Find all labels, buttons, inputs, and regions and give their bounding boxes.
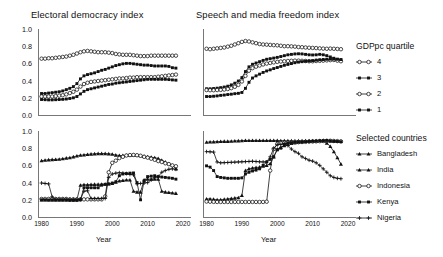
legend-item-label: 1 [377,106,381,114]
x-axis-line-bottom-left [38,217,191,218]
legend-item-label: 2 [377,90,381,98]
x-tick-label: 1990 [65,220,89,227]
x-tick-label: 2000 [265,220,289,227]
y-tick-label: 0.4 [6,77,32,86]
legend-item-label: India [377,166,393,174]
y-axis-line-top-right [203,29,204,115]
plot-speech-media-freedom-countries [203,131,348,217]
legend-item[interactable]: Kenya [356,198,399,206]
legend-marker-filled-square-icon [356,106,372,114]
legend-marker-plus-icon [356,214,372,222]
y-tick-label: 0.6 [6,161,32,170]
x-axis-title-right: Year [261,235,276,244]
y-tick-label: 1.0 [6,127,32,136]
plot-area-top-right [203,29,348,115]
plot-area-top-left [38,29,183,115]
y-axis-line-top-left [38,29,39,115]
legend-item-label: 3 [377,74,381,82]
panel-title-electoral-democracy: Electoral democracy index [31,9,143,20]
x-axis-line-top-right [203,115,356,116]
plot-area-bottom-right [203,131,348,217]
y-tick-label: 0.6 [6,59,32,68]
y-tick-label: 0.0 [6,213,32,222]
legend-item[interactable]: 3 [356,74,381,82]
x-tick-label: 2010 [136,220,160,227]
y-tick-label: 0.8 [6,144,32,153]
y-tick-label: 0.2 [6,196,32,205]
legend-marker-filled-triangle-icon [356,150,372,158]
y-tick-label: 0.8 [6,42,32,51]
x-tick-label: 2010 [301,220,325,227]
plot-area-bottom-left [38,131,183,217]
x-axis-line-bottom-right [203,217,356,218]
legend-item[interactable]: Indonesia [356,182,410,190]
plot-electoral-democracy-quartiles [38,29,183,115]
legend-marker-filled-triangle-icon [356,166,372,174]
figure-panel-grid: Electoral democracy index Speech and med… [0,0,443,257]
x-axis-line-top-left [38,115,191,116]
x-tick-label: 2000 [100,220,124,227]
legend-item[interactable]: 2 [356,90,381,98]
y-tick-label: 1.0 [6,25,32,34]
panel-title-speech-media-freedom: Speech and media freedom index [196,9,339,20]
legend-item-label: Nigeria [377,214,401,222]
legend-item[interactable]: Nigeria [356,214,401,222]
legend-item[interactable]: 1 [356,106,381,114]
x-tick-label: 1990 [230,220,254,227]
x-tick-label: 2020 [171,220,195,227]
legend-marker-open-circle-icon [356,58,372,66]
legend-marker-filled-square-icon [356,198,372,206]
y-tick-label: 0.2 [6,94,32,103]
legend-title-selected-countries: Selected countries [356,133,427,143]
y-axis-line-bottom-right [203,131,204,217]
legend-marker-open-circle-icon [356,182,372,190]
legend-item[interactable]: 4 [356,58,381,66]
legend-item-label: Bangladesh [377,150,417,158]
legend-marker-filled-square-icon [356,74,372,82]
y-tick-label: 0.0 [6,111,32,120]
legend-marker-open-circle-icon [356,90,372,98]
y-tick-label: 0.4 [6,179,32,188]
x-tick-label: 1980 [30,220,54,227]
legend-item[interactable]: Bangladesh [356,150,417,158]
legend-title-gdppc-quartile: GDPpc quartile [356,41,414,51]
legend-item-label: 4 [377,58,381,66]
plot-electoral-democracy-countries [38,131,183,217]
legend-item-label: Kenya [377,198,399,206]
y-axis-line-bottom-left [38,131,39,217]
x-axis-title-left: Year [96,235,111,244]
legend-item-label: Indonesia [377,182,410,190]
x-tick-label: 1980 [195,220,219,227]
plot-speech-media-freedom-quartiles [203,29,348,115]
legend-item[interactable]: India [356,166,393,174]
